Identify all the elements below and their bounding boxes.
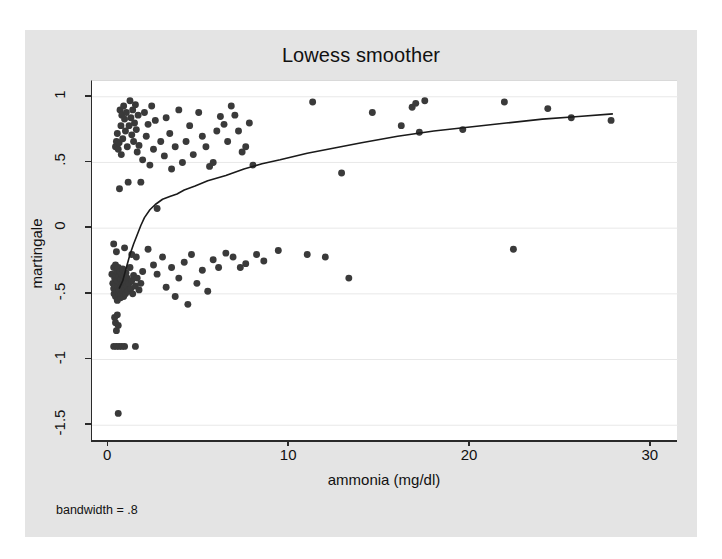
scatter-point bbox=[146, 162, 153, 169]
bandwidth-note: bandwidth = .8 bbox=[56, 503, 138, 517]
scatter-point bbox=[163, 114, 170, 121]
scatter-point bbox=[139, 268, 146, 275]
scatter-point bbox=[116, 185, 123, 192]
scatter-point bbox=[608, 117, 615, 124]
scatter-point bbox=[150, 261, 157, 268]
scatter-point bbox=[210, 159, 217, 166]
x-axis-line bbox=[91, 440, 677, 442]
scatter-point bbox=[421, 97, 428, 104]
scatter-point bbox=[154, 271, 161, 278]
scatter-point bbox=[199, 133, 206, 140]
x-tick-label: 0 bbox=[77, 446, 137, 463]
scatter-point bbox=[168, 166, 175, 173]
chart-title: Lowess smoother bbox=[25, 44, 697, 67]
x-tick-label: 30 bbox=[620, 446, 680, 463]
scatter-point bbox=[128, 131, 135, 138]
scatter-point bbox=[163, 284, 170, 291]
scatter-point bbox=[129, 290, 136, 297]
scatter-point bbox=[118, 151, 125, 158]
y-tick-label: -1 bbox=[51, 332, 68, 382]
scatter-point bbox=[119, 135, 126, 142]
scatter-point bbox=[215, 264, 222, 271]
scatter-point bbox=[136, 142, 143, 149]
scatter-points-layer bbox=[108, 97, 614, 417]
scatter-point bbox=[253, 251, 260, 258]
scatter-point bbox=[139, 156, 146, 163]
scatter-point bbox=[179, 159, 186, 166]
scatter-point bbox=[145, 121, 152, 128]
scatter-point bbox=[230, 254, 237, 261]
scatter-point bbox=[117, 122, 124, 129]
scatter-point bbox=[398, 122, 405, 129]
scatter-point bbox=[544, 105, 551, 112]
scatter-point bbox=[235, 127, 242, 134]
scatter-point bbox=[137, 179, 144, 186]
scatter-point bbox=[193, 280, 200, 287]
plot-region bbox=[91, 80, 677, 440]
scatter-point bbox=[322, 254, 329, 261]
scatter-point bbox=[137, 280, 144, 287]
scatter-point bbox=[175, 106, 182, 113]
scatter-point bbox=[369, 109, 376, 116]
scatter-point bbox=[114, 130, 121, 137]
y-tick-mark bbox=[85, 226, 91, 228]
scatter-point bbox=[172, 143, 179, 150]
scatter-point bbox=[157, 138, 164, 145]
scatter-point bbox=[123, 109, 130, 116]
scatter-point bbox=[121, 343, 128, 350]
y-tick-label: .5 bbox=[51, 135, 68, 185]
scatter-point bbox=[135, 112, 142, 119]
y-tick-mark bbox=[85, 95, 91, 97]
y-tick-label: 0 bbox=[51, 201, 68, 251]
x-axis-title: ammonia (mg/dl) bbox=[91, 471, 677, 488]
scatter-point bbox=[136, 286, 143, 293]
y-tick-label: -.5 bbox=[51, 266, 68, 316]
scatter-point bbox=[133, 126, 140, 133]
scatter-point bbox=[309, 99, 316, 106]
scatter-point bbox=[181, 259, 188, 266]
scatter-point bbox=[345, 275, 352, 282]
scatter-point bbox=[221, 121, 228, 128]
y-tick-mark bbox=[85, 423, 91, 425]
scatter-point bbox=[133, 254, 140, 261]
scatter-point bbox=[121, 244, 128, 251]
scatter-point bbox=[132, 343, 139, 350]
scatter-point bbox=[260, 258, 267, 265]
scatter-point bbox=[152, 117, 159, 124]
scatter-point bbox=[124, 143, 131, 150]
scatter-point bbox=[121, 116, 128, 123]
gridlines bbox=[92, 97, 678, 425]
scatter-point bbox=[110, 240, 117, 247]
scatter-point bbox=[510, 246, 517, 253]
scatter-point bbox=[202, 143, 209, 150]
plot-svg bbox=[92, 81, 678, 441]
scatter-point bbox=[224, 138, 231, 145]
scatter-point bbox=[145, 246, 152, 253]
scatter-point bbox=[113, 248, 120, 255]
scatter-point bbox=[199, 267, 206, 274]
scatter-point bbox=[143, 133, 150, 140]
scatter-point bbox=[175, 275, 182, 282]
scatter-point bbox=[242, 260, 249, 267]
y-tick-mark bbox=[85, 292, 91, 294]
y-tick-mark bbox=[85, 358, 91, 360]
scatter-point bbox=[242, 143, 249, 150]
figure-canvas: Lowess smoother 0102030 1.50-.5-1-1.5 am… bbox=[0, 0, 722, 559]
scatter-point bbox=[114, 311, 121, 318]
y-tick-mark bbox=[85, 161, 91, 163]
scatter-point bbox=[184, 301, 191, 308]
scatter-point bbox=[134, 149, 141, 156]
y-axis-title: martingale bbox=[28, 174, 45, 334]
scatter-point bbox=[217, 113, 224, 120]
y-tick-label: 1 bbox=[51, 69, 68, 119]
scatter-point bbox=[188, 251, 195, 258]
scatter-point bbox=[222, 250, 229, 257]
scatter-point bbox=[132, 101, 139, 108]
scatter-point bbox=[159, 254, 166, 261]
scatter-point bbox=[195, 109, 202, 116]
scatter-point bbox=[115, 410, 122, 417]
scatter-point bbox=[412, 100, 419, 107]
scatter-point bbox=[125, 179, 132, 186]
scatter-point bbox=[246, 120, 253, 127]
x-tick-label: 20 bbox=[439, 446, 499, 463]
